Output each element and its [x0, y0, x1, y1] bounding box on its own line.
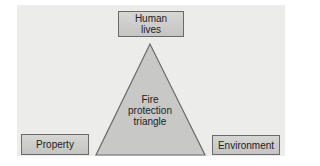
triangle-label: Fire protection triangle [110, 94, 190, 127]
node-property: Property [21, 134, 89, 155]
node-human-lives-line-1: Human [135, 13, 167, 24]
node-human-lives: Human lives [118, 11, 184, 37]
triangle-label-line-2: protection [110, 105, 190, 116]
triangle-label-line-3: triangle [110, 116, 190, 127]
triangle-label-line-1: Fire [110, 94, 190, 105]
node-environment: Environment [212, 135, 280, 155]
node-human-lives-line-2: lives [141, 24, 161, 35]
